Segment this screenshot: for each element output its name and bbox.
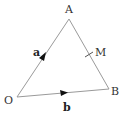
label-O: O: [4, 94, 13, 107]
arrowhead-b-icon: [60, 90, 68, 96]
vector-triangle-diagram: A O B M a b: [0, 0, 128, 122]
label-A: A: [64, 3, 74, 16]
midpoint-tick-M: [85, 52, 93, 57]
label-M: M: [95, 46, 106, 59]
label-B: B: [111, 85, 119, 98]
vector-label-b: b: [63, 101, 71, 114]
vector-label-a: a: [33, 46, 40, 59]
